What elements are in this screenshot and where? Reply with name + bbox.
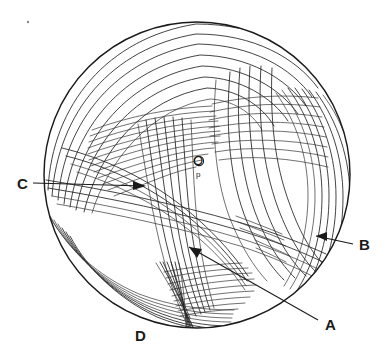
bundle-group	[46, 24, 362, 336]
label-d: D	[135, 327, 146, 344]
origin-point-group: O p	[193, 153, 204, 179]
figure-root: A B C D O p	[0, 0, 390, 362]
circular-line-diagram: A B C D O p	[0, 0, 390, 362]
label-b: B	[359, 236, 370, 253]
label-origin-sub: p	[196, 170, 201, 179]
callout-a-arrowhead	[189, 247, 202, 258]
callout-c-arrowhead	[133, 181, 146, 190]
label-a: A	[325, 316, 336, 333]
bundle-centre-diagonal-sweeps	[62, 148, 248, 290]
bundle-centre-faint-links	[236, 216, 290, 262]
bundle-upper-right-horizontal-fan	[209, 96, 328, 167]
label-c: C	[17, 175, 28, 192]
callout-a: A	[189, 247, 336, 333]
page-speck	[27, 21, 29, 23]
